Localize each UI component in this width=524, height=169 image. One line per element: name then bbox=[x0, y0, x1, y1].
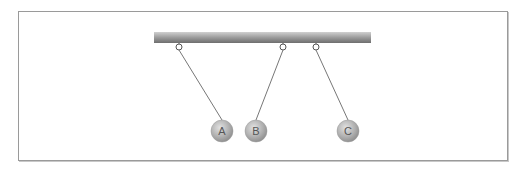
bob-label: B bbox=[252, 125, 259, 137]
string bbox=[256, 50, 283, 120]
pendulum-a: A bbox=[176, 43, 233, 142]
bob-label: C bbox=[344, 125, 352, 137]
pendulum-diagram: ABC bbox=[0, 0, 524, 169]
pivot-ring bbox=[280, 44, 286, 50]
bob-label: A bbox=[218, 125, 226, 137]
pendulum-b: B bbox=[245, 43, 286, 142]
support-bar bbox=[154, 32, 371, 43]
pendulum-c: C bbox=[313, 43, 359, 142]
pivot-ring bbox=[313, 44, 319, 50]
string bbox=[316, 50, 348, 120]
pivot-ring bbox=[176, 44, 182, 50]
string bbox=[179, 50, 222, 120]
